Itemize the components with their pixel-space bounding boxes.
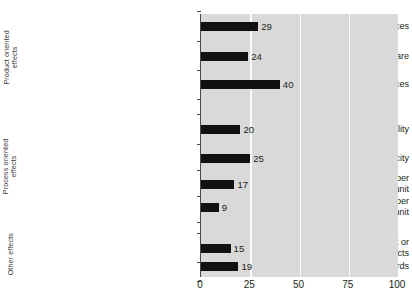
bar (201, 80, 280, 89)
cropped-source-text (6, 298, 8, 305)
group-label-line-1: Other effects (7, 233, 15, 275)
y-axis-tick (197, 41, 201, 42)
group-label-line-2: effects (11, 30, 19, 84)
bar (201, 22, 258, 31)
bar (201, 154, 250, 163)
group-label-other-effects: Other effects (0, 228, 22, 280)
y-axis-tick (197, 196, 201, 197)
group-label-product-oriented-effects: Product oriented effects (0, 14, 22, 100)
bar-value-label: 9 (222, 203, 227, 212)
bar-value-label: 15 (234, 244, 245, 253)
x-axis: 0255075100 (199, 277, 397, 278)
bar (201, 125, 240, 134)
bar-value-label: 29 (261, 22, 272, 31)
y-axis-tick (197, 70, 201, 71)
gridline-75 (349, 14, 350, 277)
x-axis-tick-label: 25 (244, 279, 255, 290)
bar (201, 52, 248, 61)
bar (201, 180, 234, 189)
bar-value-label: 17 (237, 180, 248, 189)
plot-area: 29244020251791519 (200, 14, 398, 277)
y-axis-tick (197, 233, 201, 234)
y-axis-tick (197, 11, 201, 12)
x-axis-tick-label: 75 (342, 279, 353, 290)
bar (201, 262, 238, 271)
bar-value-label: 20 (243, 125, 254, 134)
y-axis-tick (197, 262, 201, 263)
bar-value-label: 25 (253, 154, 264, 163)
x-axis-tick-label: 100 (389, 279, 406, 290)
bar (201, 244, 231, 253)
y-axis-tick (197, 114, 201, 115)
group-label-line-2: effects (11, 138, 19, 194)
bar-chart: Product oriented effects Process oriente… (0, 0, 412, 306)
y-axis-tick (197, 170, 201, 171)
group-label-process-oriented-effects: Process oriented effects (0, 112, 22, 220)
gridline-50 (300, 14, 301, 277)
y-axis-tick (197, 222, 201, 223)
x-axis-tick-label: 50 (293, 279, 304, 290)
bar-value-label: 19 (241, 262, 252, 271)
x-axis-tick-label: 0 (197, 279, 203, 290)
bar (201, 203, 219, 212)
bar-value-label: 40 (283, 80, 294, 89)
y-axis-tick (197, 144, 201, 145)
y-axis-tick (197, 99, 201, 100)
bar-value-label: 24 (251, 52, 262, 61)
